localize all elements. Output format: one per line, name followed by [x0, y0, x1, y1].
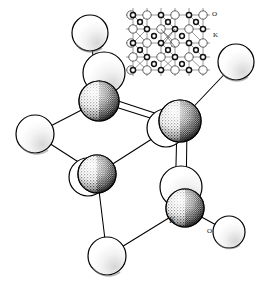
atom-o-top-left: [72, 15, 108, 52]
inset-lattice: [126, 8, 210, 76]
label-k-inset: K: [213, 32, 218, 39]
label-k-main: K: [169, 216, 176, 225]
atom-o-bottom: [88, 237, 126, 276]
label-o-inset: O: [212, 11, 217, 18]
atom-o-right: [218, 44, 254, 81]
atom-o-bottom-right: [213, 216, 245, 249]
crystal-structure-figure: K O O K: [0, 0, 270, 291]
structure-canvas: [0, 0, 270, 291]
atom-k-center: [159, 100, 201, 142]
label-o-main: O: [207, 228, 212, 235]
atom-o-left: [16, 115, 54, 154]
atom-k-upper-left: [79, 81, 119, 121]
atom-k-center-left: [78, 155, 116, 193]
